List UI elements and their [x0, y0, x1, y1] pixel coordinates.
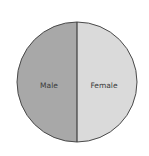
slice-label-female: Female — [90, 81, 118, 90]
slice-label-male: Male — [40, 81, 58, 90]
pie-chart: Male Female — [0, 0, 149, 156]
